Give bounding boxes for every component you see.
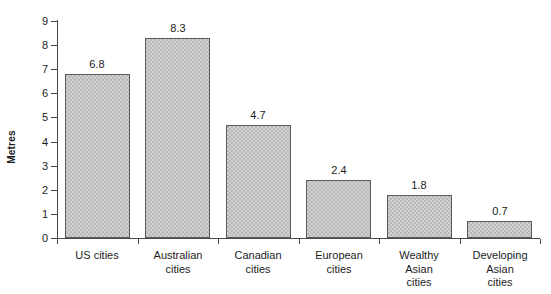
y-tick-label: 8 (4, 39, 48, 51)
bar (226, 125, 291, 238)
bar-value-label: 6.8 (89, 58, 104, 70)
y-tick-mark (51, 93, 57, 94)
y-tick-label: 7 (4, 63, 48, 75)
y-tick-mark (51, 117, 57, 118)
y-tick-label: 3 (4, 160, 48, 172)
x-axis-category-label: Wealthy Asian cities (399, 249, 439, 290)
y-tick-mark (51, 190, 57, 191)
bar-value-label: 2.4 (331, 164, 346, 176)
x-tick-mark (57, 239, 58, 244)
x-tick-mark (379, 239, 380, 244)
x-axis-category-label: Developing Asian cities (472, 249, 527, 290)
y-tick-mark (51, 142, 57, 143)
bar-value-label: 0.7 (492, 205, 507, 217)
y-axis-line (57, 20, 58, 239)
bar (306, 180, 371, 238)
bar-value-label: 1.8 (411, 179, 426, 191)
bar-value-label: 8.3 (170, 22, 185, 34)
x-axis-category-label: Australian cities (154, 249, 203, 276)
y-tick-mark (51, 166, 57, 167)
y-tick-mark (51, 214, 57, 215)
bar (467, 221, 532, 238)
x-tick-mark (460, 239, 461, 244)
bar-chart: Metres 0123456789 6.88.34.72.41.80.7 US … (0, 0, 551, 294)
y-tick-label: 2 (4, 184, 48, 196)
bar (145, 38, 210, 238)
y-tick-label: 6 (4, 87, 48, 99)
y-tick-mark (51, 69, 57, 70)
y-tick-mark (51, 21, 57, 22)
bar-value-label: 4.7 (250, 109, 265, 121)
bar (65, 74, 130, 238)
y-tick-label: 0 (4, 232, 48, 244)
y-tick-mark (51, 45, 57, 46)
x-tick-mark (299, 239, 300, 244)
y-tick-label: 5 (4, 111, 48, 123)
x-tick-mark (218, 239, 219, 244)
x-axis-category-label: European cities (315, 249, 363, 276)
y-tick-label: 4 (4, 136, 48, 148)
x-axis-category-label: Canadian cities (234, 249, 281, 276)
y-tick-label: 1 (4, 208, 48, 220)
x-axis-category-label: US cities (75, 249, 118, 263)
bar (387, 195, 452, 238)
x-tick-mark (540, 239, 541, 244)
y-tick-label: 9 (4, 15, 48, 27)
x-tick-mark (138, 239, 139, 244)
